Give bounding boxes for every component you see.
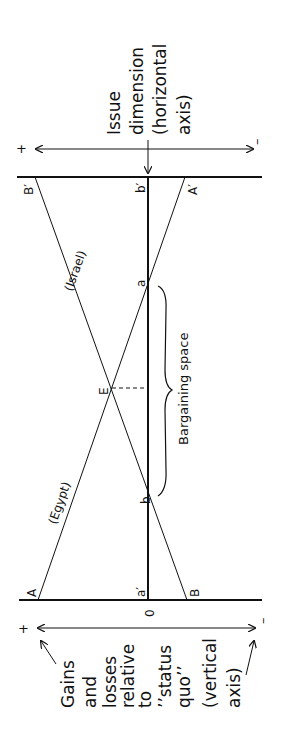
svg-text:and: and: [80, 676, 100, 708]
point-a: a: [134, 280, 148, 287]
svg-text:axis): axis): [174, 94, 194, 135]
vertical-label-pointer-plus: [41, 641, 56, 664]
bargaining-space-brace: [158, 286, 172, 496]
point-A: A: [25, 588, 39, 597]
plus-sign-bottom: +: [18, 621, 29, 636]
bargaining-space-label: Bargaining space: [176, 333, 191, 445]
point-B: B: [188, 589, 202, 597]
top-gain-loss-arrow: + –: [16, 139, 264, 157]
point-A-prime: A′: [186, 184, 200, 195]
point-b-prime: b′: [134, 182, 148, 193]
israel-label: (Israel): [62, 249, 89, 293]
point-a-prime: a′: [134, 587, 148, 597]
minus-sign-top: –: [249, 139, 264, 146]
point-b: b: [139, 496, 153, 504]
bottom-gain-loss-arrow: + –: [18, 618, 270, 637]
horizontal-axis-label: Issue dimension (horizontal axis): [104, 44, 194, 135]
svg-text:axis): axis): [224, 667, 244, 708]
point-B-prime: B′: [22, 184, 36, 195]
israel-line: [35, 177, 187, 600]
svg-text:to: to: [135, 691, 155, 708]
svg-text:(vertical: (vertical: [200, 638, 220, 708]
origin-label: 0: [143, 609, 157, 617]
svg-text:Gains: Gains: [58, 660, 78, 708]
svg-text:Issue: Issue: [104, 91, 124, 135]
egypt-label: (Egypt): [46, 480, 74, 526]
vertical-axis-label: Gains and losses relative to ’’status qu…: [58, 638, 244, 708]
svg-text:dimension: dimension: [127, 47, 147, 135]
svg-text:losses: losses: [100, 656, 120, 708]
plus-sign-top: +: [16, 141, 27, 156]
point-E: E: [97, 387, 111, 395]
svg-text:’’status: ’’status: [155, 645, 175, 708]
svg-text:quo’’: quo’’: [174, 665, 194, 708]
minus-sign-bottom: –: [255, 618, 270, 625]
vertical-label-pointer-minus: [246, 641, 254, 675]
svg-text:(horizontal: (horizontal: [150, 44, 170, 135]
bargaining-diagram: Issue dimension (horizontal axis) + – Ba…: [0, 0, 281, 749]
